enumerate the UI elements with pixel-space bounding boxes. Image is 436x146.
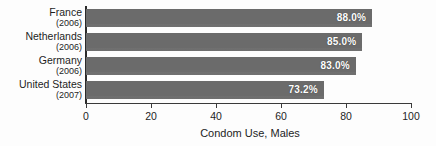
x-axis-tick-label: 100 xyxy=(402,110,420,122)
bar-row: 88.0% xyxy=(86,6,411,30)
x-axis-tick xyxy=(216,103,217,108)
x-axis-tick-label: 20 xyxy=(145,110,157,122)
category-label-3: United States (2007) xyxy=(0,78,82,101)
x-axis-tick xyxy=(346,103,347,108)
category-name: Germany xyxy=(0,54,82,66)
x-axis-tick-label: 60 xyxy=(275,110,287,122)
category-label-1: Netherlands (2006) xyxy=(0,30,82,53)
x-axis-tick-label: 40 xyxy=(210,110,222,122)
bar-value-label: 88.0% xyxy=(86,9,366,27)
category-label-2: Germany (2006) xyxy=(0,54,82,77)
x-axis-tick-label: 80 xyxy=(340,110,352,122)
bar-row: 85.0% xyxy=(86,30,411,54)
category-year: (2006) xyxy=(0,42,82,53)
bar-row: 83.0% xyxy=(86,54,411,78)
x-axis-tick-label: 0 xyxy=(83,110,89,122)
bar-value-label: 73.2% xyxy=(86,81,318,99)
bar-value-label: 85.0% xyxy=(86,33,356,51)
category-year: (2006) xyxy=(0,66,82,77)
category-name: Netherlands xyxy=(0,30,82,42)
bar-value-label: 83.0% xyxy=(86,57,350,75)
x-axis-tick xyxy=(151,103,152,108)
category-name: United States xyxy=(0,78,82,90)
category-year: (2007) xyxy=(0,90,82,101)
plot-area: 88.0% 85.0% 83.0% 73.2% xyxy=(86,6,411,103)
bar-chart: France (2006) Netherlands (2006) Germany… xyxy=(0,0,436,146)
category-label-0: France (2006) xyxy=(0,6,82,29)
bar-row: 73.2% xyxy=(86,78,411,102)
x-axis-tick xyxy=(86,103,87,108)
x-axis-tick xyxy=(411,103,412,108)
category-name: France xyxy=(0,6,82,18)
x-axis-line xyxy=(85,103,412,104)
x-axis-tick xyxy=(281,103,282,108)
x-axis-title: Condom Use, Males xyxy=(0,127,436,139)
x-axis-title-text: Condom Use, Males xyxy=(200,127,300,139)
category-year: (2006) xyxy=(0,18,82,29)
